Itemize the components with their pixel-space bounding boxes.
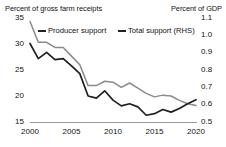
right-tick-1.1: 1.1 [201, 13, 221, 22]
x-tick-2005: 2005 [57, 127, 87, 136]
left-tick-35: 35 [6, 13, 24, 22]
legend-swatch-total-support [118, 30, 126, 32]
right-tick-0.6: 0.6 [201, 99, 221, 108]
legend-item-producer-support: Producer support [38, 27, 106, 35]
right-tick-0.7: 0.7 [201, 82, 221, 91]
x-tick-2020: 2020 [181, 127, 211, 136]
x-tick-2010: 2010 [98, 127, 128, 136]
legend-swatch-producer-support [38, 30, 46, 32]
legend-item-total-support: Total support (RHS) [118, 27, 195, 35]
chart-container: Percent of gross farm receipts Percent o… [0, 0, 226, 147]
left-tick-25: 25 [6, 65, 24, 74]
left-tick-20: 20 [6, 91, 24, 100]
x-axis-line [30, 122, 197, 123]
right-tick-0.9: 0.9 [201, 47, 221, 56]
right-tick-0.5: 0.5 [201, 117, 221, 126]
left-tick-30: 30 [6, 39, 24, 48]
right-tick-0.8: 0.8 [201, 65, 221, 74]
legend-label-producer-support: Producer support [48, 27, 106, 35]
x-tick-2000: 2000 [15, 127, 45, 136]
line-producer-support [30, 43, 196, 115]
x-tick-2015: 2015 [140, 127, 170, 136]
left-tick-15: 15 [6, 117, 24, 126]
legend-label-total-support: Total support (RHS) [128, 27, 195, 35]
right-tick-1.0: 1.0 [201, 30, 221, 39]
